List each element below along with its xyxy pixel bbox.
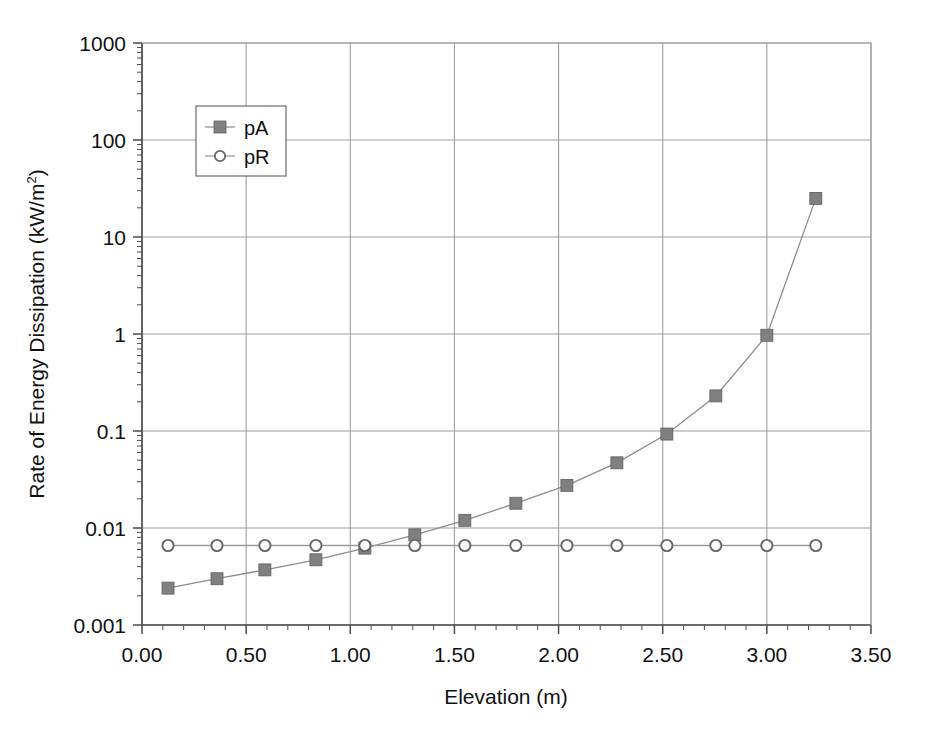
y-tick-label-0.001: 0.001 bbox=[73, 614, 126, 637]
y-tick-label-1: 1 bbox=[114, 323, 126, 346]
data-point-pA bbox=[211, 573, 223, 585]
data-point-pR bbox=[211, 540, 222, 551]
y-axis-title-main: Rate of Energy Dissipation (kW/m bbox=[25, 184, 48, 499]
data-point-pR bbox=[611, 540, 622, 551]
data-point-pR bbox=[459, 540, 470, 551]
x-tick-label-2.00: 2.00 bbox=[538, 643, 579, 666]
data-point-pA bbox=[611, 457, 623, 469]
legend-marker-pR bbox=[215, 151, 225, 161]
x-tick-label-2.50: 2.50 bbox=[642, 643, 683, 666]
data-point-pA bbox=[810, 192, 822, 204]
data-point-pR bbox=[310, 540, 321, 551]
y-tick-label-10: 10 bbox=[103, 226, 126, 249]
data-point-pA bbox=[459, 514, 471, 526]
x-tick-label-3.50: 3.50 bbox=[851, 643, 892, 666]
legend-label-pA: pA bbox=[244, 117, 269, 139]
x-tick-label-0.50: 0.50 bbox=[226, 643, 267, 666]
x-tick-label-1.50: 1.50 bbox=[434, 643, 475, 666]
legend-box bbox=[196, 106, 286, 176]
x-tick-label-3.00: 3.00 bbox=[746, 643, 787, 666]
data-point-pR bbox=[710, 540, 721, 551]
chart-container: 0.000.501.001.502.002.503.003.50 0.0010.… bbox=[0, 0, 935, 735]
data-point-pA bbox=[661, 428, 673, 440]
y-tick-label-1000: 1000 bbox=[79, 32, 126, 55]
data-point-pR bbox=[810, 540, 821, 551]
x-axis-title: Elevation (m) bbox=[444, 685, 568, 708]
data-point-pA bbox=[162, 582, 174, 594]
data-point-pA bbox=[510, 497, 522, 509]
y-tick-label-100: 100 bbox=[91, 129, 126, 152]
x-tick-label-0.00: 0.00 bbox=[122, 643, 163, 666]
y-tick-label-0.01: 0.01 bbox=[85, 517, 126, 540]
data-point-pR bbox=[359, 540, 370, 551]
data-point-pA bbox=[761, 329, 773, 341]
y-tick-label-0.1: 0.1 bbox=[97, 420, 126, 443]
data-point-pA bbox=[710, 390, 722, 402]
data-point-pR bbox=[409, 540, 420, 551]
data-point-pA bbox=[259, 564, 271, 576]
data-point-pR bbox=[510, 540, 521, 551]
data-point-pR bbox=[661, 540, 672, 551]
legend-label-pR: pR bbox=[244, 146, 270, 168]
chart-legend[interactable]: pApR bbox=[196, 106, 286, 176]
data-point-pA bbox=[310, 554, 322, 566]
data-point-pR bbox=[162, 540, 173, 551]
data-point-pA bbox=[561, 479, 573, 491]
svg-text:Rate of Energy Dissipation (kW: Rate of Energy Dissipation (kW/m2) bbox=[24, 169, 48, 498]
data-point-pR bbox=[561, 540, 572, 551]
legend-marker-pA bbox=[214, 121, 226, 133]
x-tick-label-1.00: 1.00 bbox=[330, 643, 371, 666]
energy-dissipation-log-chart: 0.000.501.001.502.002.503.003.50 0.0010.… bbox=[0, 0, 935, 735]
y-axis-title: Rate of Energy Dissipation (kW/m2) bbox=[24, 169, 48, 498]
data-point-pR bbox=[761, 540, 772, 551]
y-axis-title-suffix: ) bbox=[25, 169, 48, 176]
y-axis-title-superscript: 2 bbox=[24, 176, 39, 183]
data-point-pR bbox=[259, 540, 270, 551]
